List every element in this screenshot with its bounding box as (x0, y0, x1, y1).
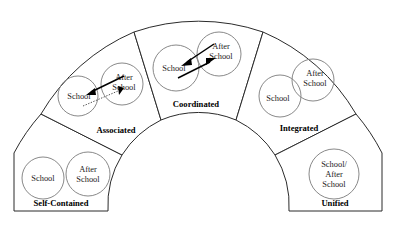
bubble-school-label: School (31, 174, 55, 183)
bubble-after-school-label-line1: After (79, 165, 97, 174)
bubble-school-label: School (67, 92, 91, 101)
segment-label-associated: Associated (96, 125, 135, 135)
bubble-unified-label-line3: School (322, 180, 346, 189)
bubble-after-school-label-line1: After (115, 73, 133, 82)
bubble-unified-label-line1: School/ (321, 160, 347, 169)
bubble-after-school-label-line2: School (76, 175, 100, 184)
segment-label-unified: Unified (321, 198, 348, 208)
bubble-school-label: School (266, 94, 290, 103)
bubble-after-school-label-line1: After (306, 69, 324, 78)
continuum-fan-diagram: School After School Self-Contained Schoo… (0, 0, 396, 229)
segment-label-integrated: Integrated (280, 123, 319, 133)
bubble-unified-label-line2: After (325, 170, 343, 179)
bubble-after-school-label-line2: School (303, 79, 327, 88)
bubble-after-school-label-line1: After (212, 42, 230, 51)
bubble-after-school-label-line2: School (112, 83, 136, 92)
segment-label-self-contained: Self-Contained (34, 198, 89, 208)
segment-label-coordinated: Coordinated (173, 99, 220, 109)
